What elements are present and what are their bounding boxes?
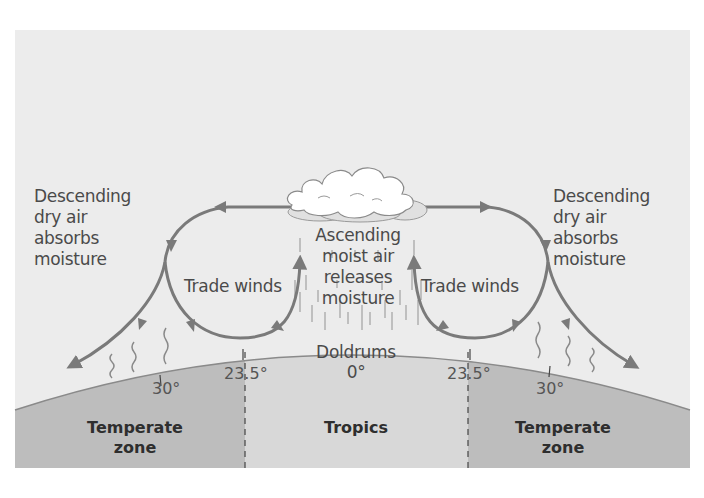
left-descending-line-4: moisture bbox=[34, 249, 131, 270]
ascending-line-2: moist air bbox=[296, 246, 420, 267]
ascending-line-1: Ascending bbox=[296, 225, 420, 246]
left-23_5-degree-label: 23.5° bbox=[224, 365, 268, 383]
left-30-degree-label: 30° bbox=[152, 380, 180, 398]
ascending-line-4: moisture bbox=[296, 288, 420, 309]
right-descending-line-4: moisture bbox=[553, 249, 650, 270]
left-descending-line-3: absorbs bbox=[34, 228, 131, 249]
left-descending-line-1: Descending bbox=[34, 186, 131, 207]
right-30-degree-label: 30° bbox=[536, 380, 564, 398]
left-temperate-zone-label: Temperate zone bbox=[75, 418, 195, 458]
doldrums-label: Doldrums bbox=[300, 342, 412, 363]
right-temperate-line-2: zone bbox=[503, 438, 623, 458]
left-descending-label: Descending dry air absorbs moisture bbox=[34, 186, 131, 270]
right-23_5-degree-label: 23.5° bbox=[447, 365, 491, 383]
left-trade-winds-label: Trade winds bbox=[184, 276, 282, 297]
right-temperate-line-1: Temperate bbox=[503, 418, 623, 438]
right-temperate-zone-label: Temperate zone bbox=[503, 418, 623, 458]
ascending-line-3: releases bbox=[296, 267, 420, 288]
right-descending-line-2: dry air bbox=[553, 207, 650, 228]
right-descending-line-3: absorbs bbox=[553, 228, 650, 249]
left-temperate-line-1: Temperate bbox=[75, 418, 195, 438]
left-descending-line-2: dry air bbox=[34, 207, 131, 228]
tropics-zone-label: Tropics bbox=[306, 418, 406, 438]
equator-degree-label: 0° bbox=[320, 362, 392, 383]
left-temperate-line-2: zone bbox=[75, 438, 195, 458]
right-descending-line-1: Descending bbox=[553, 186, 650, 207]
hadley-cell-diagram: Descending dry air absorbs moisture Desc… bbox=[0, 0, 704, 498]
right-trade-winds-label: Trade winds bbox=[421, 276, 519, 297]
ascending-label: Ascending moist air releases moisture bbox=[296, 225, 420, 309]
right-descending-label: Descending dry air absorbs moisture bbox=[553, 186, 650, 270]
